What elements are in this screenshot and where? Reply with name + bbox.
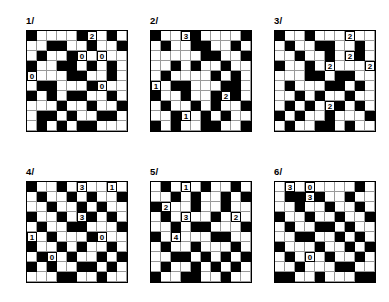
- grid-empty-cell[interactable]: [231, 111, 241, 121]
- grid-empty-cell[interactable]: [97, 91, 107, 101]
- grid-empty-cell[interactable]: [117, 182, 127, 192]
- grid-filled-cell[interactable]: [67, 61, 77, 71]
- grid-empty-cell[interactable]: [191, 91, 201, 101]
- grid-empty-cell[interactable]: [285, 91, 295, 101]
- grid-empty-cell[interactable]: [345, 252, 355, 262]
- grid-filled-cell[interactable]: [67, 51, 77, 61]
- grid-empty-cell[interactable]: [97, 61, 107, 71]
- grid-empty-cell[interactable]: [211, 222, 221, 232]
- grid-filled-cell[interactable]: [87, 212, 97, 222]
- grid-filled-cell[interactable]: [305, 232, 315, 242]
- grid-empty-cell[interactable]: [355, 212, 365, 222]
- grid-empty-cell[interactable]: [345, 41, 355, 51]
- grid-empty-cell[interactable]: [365, 121, 375, 131]
- grid-empty-cell[interactable]: [315, 232, 325, 242]
- grid-empty-cell[interactable]: [57, 252, 67, 262]
- grid-empty-cell[interactable]: [161, 232, 171, 242]
- grid-empty-cell[interactable]: [365, 202, 375, 212]
- grid-empty-cell[interactable]: [181, 101, 191, 111]
- grid-clue-cell[interactable]: 1: [107, 182, 117, 192]
- grid-empty-cell[interactable]: [37, 262, 47, 272]
- grid-filled-cell[interactable]: [345, 91, 355, 101]
- grid-empty-cell[interactable]: [171, 101, 181, 111]
- grid-empty-cell[interactable]: [305, 242, 315, 252]
- grid-empty-cell[interactable]: [275, 192, 285, 202]
- grid-empty-cell[interactable]: [191, 232, 201, 242]
- grid-empty-cell[interactable]: [221, 31, 231, 41]
- grid-empty-cell[interactable]: [27, 121, 37, 131]
- grid-filled-cell[interactable]: [191, 262, 201, 272]
- grid-empty-cell[interactable]: [365, 262, 375, 272]
- grid-empty-cell[interactable]: [325, 242, 335, 252]
- grid-filled-cell[interactable]: [201, 222, 211, 232]
- grid-filled-cell[interactable]: [67, 192, 77, 202]
- grid-filled-cell[interactable]: [107, 61, 117, 71]
- grid-empty-cell[interactable]: [27, 101, 37, 111]
- grid-empty-cell[interactable]: [315, 101, 325, 111]
- grid-filled-cell[interactable]: [97, 252, 107, 262]
- grid-filled-cell[interactable]: [325, 51, 335, 61]
- grid-filled-cell[interactable]: [191, 31, 201, 41]
- grid-filled-cell[interactable]: [161, 101, 171, 111]
- grid-empty-cell[interactable]: [241, 41, 251, 51]
- grid-filled-cell[interactable]: [191, 202, 201, 212]
- grid-filled-cell[interactable]: [87, 81, 97, 91]
- grid-filled-cell[interactable]: [355, 41, 365, 51]
- grid-filled-cell[interactable]: [365, 212, 375, 222]
- grid-clue-cell[interactable]: 3: [285, 182, 295, 192]
- grid-filled-cell[interactable]: [241, 101, 251, 111]
- grid-empty-cell[interactable]: [107, 51, 117, 61]
- grid-empty-cell[interactable]: [117, 51, 127, 61]
- grid-empty-cell[interactable]: [87, 242, 97, 252]
- grid-empty-cell[interactable]: [231, 61, 241, 71]
- grid-empty-cell[interactable]: [181, 232, 191, 242]
- grid-filled-cell[interactable]: [241, 51, 251, 61]
- grid-empty-cell[interactable]: [315, 111, 325, 121]
- grid-filled-cell[interactable]: [161, 262, 171, 272]
- grid-filled-cell[interactable]: [315, 192, 325, 202]
- grid-filled-cell[interactable]: [335, 101, 345, 111]
- grid-empty-cell[interactable]: [305, 121, 315, 131]
- grid-empty-cell[interactable]: [231, 222, 241, 232]
- grid-filled-cell[interactable]: [305, 212, 315, 222]
- grid-empty-cell[interactable]: [221, 71, 231, 81]
- puzzle-grid[interactable]: 3030: [274, 181, 376, 283]
- grid-clue-cell[interactable]: 2: [87, 31, 97, 41]
- grid-filled-cell[interactable]: [151, 91, 161, 101]
- grid-clue-cell[interactable]: 1: [27, 232, 37, 242]
- grid-filled-cell[interactable]: [241, 222, 251, 232]
- puzzle-grid[interactable]: 12324: [150, 181, 252, 283]
- grid-empty-cell[interactable]: [355, 91, 365, 101]
- grid-empty-cell[interactable]: [335, 242, 345, 252]
- grid-empty-cell[interactable]: [97, 262, 107, 272]
- grid-filled-cell[interactable]: [355, 51, 365, 61]
- grid-empty-cell[interactable]: [365, 31, 375, 41]
- grid-empty-cell[interactable]: [87, 222, 97, 232]
- grid-empty-cell[interactable]: [171, 51, 181, 61]
- grid-filled-cell[interactable]: [275, 31, 285, 41]
- grid-empty-cell[interactable]: [67, 202, 77, 212]
- grid-empty-cell[interactable]: [315, 212, 325, 222]
- grid-filled-cell[interactable]: [87, 41, 97, 51]
- grid-filled-cell[interactable]: [305, 31, 315, 41]
- grid-empty-cell[interactable]: [335, 121, 345, 131]
- grid-empty-cell[interactable]: [161, 121, 171, 131]
- grid-filled-cell[interactable]: [315, 71, 325, 81]
- grid-filled-cell[interactable]: [87, 121, 97, 131]
- grid-empty-cell[interactable]: [305, 91, 315, 101]
- grid-filled-cell[interactable]: [77, 31, 87, 41]
- grid-empty-cell[interactable]: [37, 272, 47, 282]
- grid-filled-cell[interactable]: [191, 101, 201, 111]
- grid-empty-cell[interactable]: [47, 242, 57, 252]
- grid-empty-cell[interactable]: [285, 262, 295, 272]
- grid-filled-cell[interactable]: [365, 111, 375, 121]
- grid-filled-cell[interactable]: [171, 61, 181, 71]
- grid-empty-cell[interactable]: [325, 91, 335, 101]
- grid-empty-cell[interactable]: [231, 121, 241, 131]
- grid-empty-cell[interactable]: [295, 272, 305, 282]
- grid-empty-cell[interactable]: [67, 41, 77, 51]
- grid-filled-cell[interactable]: [335, 212, 345, 222]
- grid-empty-cell[interactable]: [47, 222, 57, 232]
- grid-filled-cell[interactable]: [275, 272, 285, 282]
- grid-empty-cell[interactable]: [201, 31, 211, 41]
